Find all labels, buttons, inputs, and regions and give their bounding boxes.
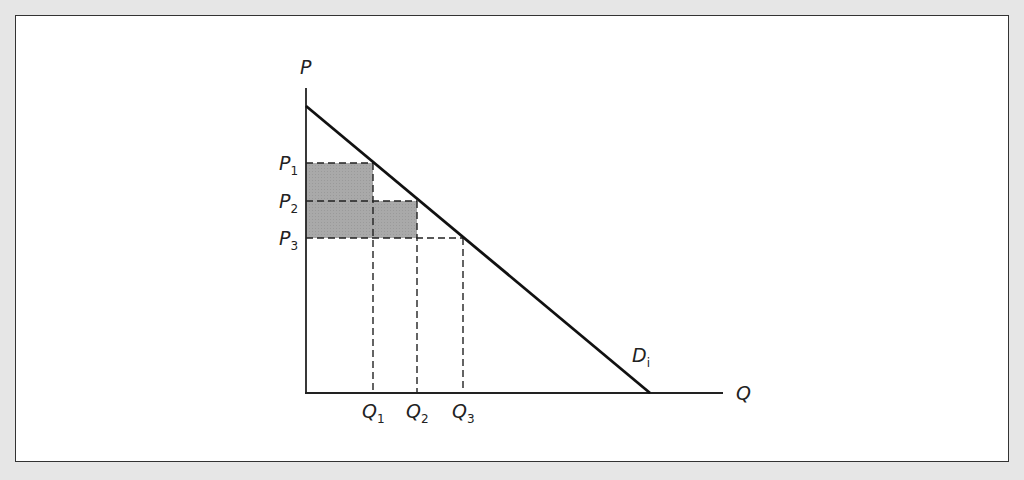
- demand-curve-label: Di: [632, 344, 650, 370]
- demand-curve: [306, 106, 650, 393]
- price-label-p3: P3: [279, 227, 298, 253]
- quantity-label-q2: Q2: [406, 400, 429, 426]
- quantity-label-q3: Q3: [452, 400, 475, 426]
- x-axis-label: Q: [736, 382, 751, 404]
- price-label-p2: P2: [279, 190, 298, 216]
- y-axis-label: P: [300, 56, 312, 78]
- shaded-area-q2: [373, 201, 417, 238]
- quantity-label-q1: Q1: [362, 400, 385, 426]
- price-label-p1: P1: [279, 152, 298, 178]
- demand-diagram: P Q Di P1 P2 P3 Q1 Q2 Q3: [0, 0, 1024, 480]
